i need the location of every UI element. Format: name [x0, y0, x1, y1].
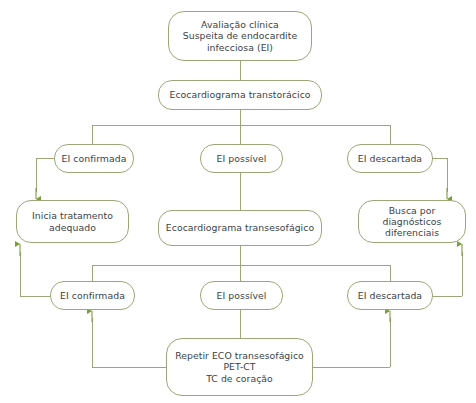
node-label: Repetir ECO transesofágico PET-CT TC de …	[175, 350, 304, 384]
node-ecocardiograma-transtoracico: Ecocardiograma transtorácico	[158, 80, 322, 110]
node-ei-possivel-2: EI possível	[200, 281, 283, 310]
node-label: Busca por diagnósticos diferenciais	[363, 205, 461, 239]
node-repetir-exames: Repetir ECO transesofágico PET-CT TC de …	[166, 338, 313, 396]
node-label: EI confirmada	[62, 153, 127, 164]
node-ei-confirmada-2: EI confirmada	[50, 281, 135, 310]
node-label: EI possível	[217, 290, 267, 301]
node-label: Inicia tratamento adequado	[32, 210, 113, 233]
node-busca-diagnosticos-diferenciais: Busca por diagnósticos diferenciais	[358, 200, 466, 243]
node-label: Ecocardiograma transesofágico	[166, 222, 314, 233]
node-label: EI confirmada	[60, 290, 125, 301]
node-ei-confirmada-1: EI confirmada	[54, 144, 134, 173]
node-ecocardiograma-transesofagico: Ecocardiograma transesofágico	[158, 210, 322, 246]
node-label: EI descartada	[358, 290, 422, 301]
node-label: EI possível	[217, 153, 267, 164]
node-inicia-tratamento: Inicia tratamento adequado	[16, 200, 129, 243]
node-label: Ecocardiograma transtorácico	[169, 89, 310, 100]
node-ei-possivel-1: EI possível	[200, 144, 283, 173]
node-label: Avaliação clínica Suspeita de endocardit…	[183, 19, 297, 53]
node-avaliacao-clinica: Avaliação clínica Suspeita de endocardit…	[168, 11, 312, 61]
node-ei-descartada-2: EI descartada	[347, 281, 433, 310]
node-ei-descartada-1: EI descartada	[347, 144, 433, 173]
flowchart-canvas: Avaliação clínica Suspeita de endocardit…	[0, 0, 476, 403]
node-label: EI descartada	[358, 153, 422, 164]
